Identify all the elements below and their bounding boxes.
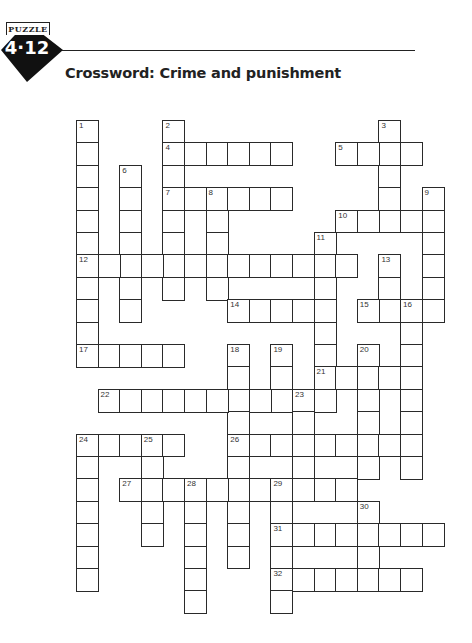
- crossword-cell[interactable]: [378, 299, 401, 323]
- crossword-cell[interactable]: [76, 187, 99, 211]
- crossword-cell[interactable]: [141, 456, 164, 480]
- crossword-cell[interactable]: [314, 299, 337, 323]
- crossword-cell[interactable]: [184, 501, 207, 525]
- crossword-cell[interactable]: [227, 546, 250, 570]
- crossword-cell[interactable]: [119, 389, 142, 413]
- crossword-cell[interactable]: [378, 187, 401, 211]
- crossword-cell[interactable]: [76, 478, 99, 502]
- crossword-cell[interactable]: [270, 501, 293, 525]
- crossword-cell[interactable]: [292, 523, 315, 547]
- crossword-cell[interactable]: [249, 187, 272, 211]
- crossword-cell[interactable]: [400, 411, 423, 435]
- crossword-cell[interactable]: [335, 434, 358, 458]
- crossword-cell[interactable]: 1: [76, 120, 99, 144]
- crossword-cell[interactable]: [76, 232, 99, 256]
- crossword-cell[interactable]: [422, 277, 445, 301]
- crossword-cell[interactable]: [249, 434, 272, 458]
- crossword-cell[interactable]: 10: [335, 210, 358, 234]
- crossword-cell[interactable]: [227, 389, 250, 413]
- crossword-cell[interactable]: [227, 187, 250, 211]
- crossword-cell[interactable]: [378, 142, 401, 166]
- crossword-cell[interactable]: [335, 366, 358, 390]
- crossword-cell[interactable]: 14: [227, 299, 250, 323]
- crossword-cell[interactable]: 21: [314, 366, 337, 390]
- crossword-cell[interactable]: [378, 523, 401, 547]
- crossword-cell[interactable]: 22: [98, 389, 121, 413]
- crossword-cell[interactable]: [270, 299, 293, 323]
- crossword-cell[interactable]: [76, 546, 99, 570]
- crossword-cell[interactable]: [141, 523, 164, 547]
- crossword-cell[interactable]: 19: [270, 344, 293, 368]
- crossword-cell[interactable]: [227, 254, 250, 278]
- crossword-cell[interactable]: [270, 366, 293, 390]
- crossword-cell[interactable]: [227, 501, 250, 525]
- crossword-cell[interactable]: [184, 389, 207, 413]
- crossword-cell[interactable]: [357, 456, 380, 480]
- crossword-cell[interactable]: 11: [314, 232, 337, 256]
- crossword-cell[interactable]: [422, 232, 445, 256]
- crossword-cell[interactable]: 13: [378, 254, 401, 278]
- crossword-cell[interactable]: [76, 568, 99, 592]
- crossword-cell[interactable]: [314, 434, 337, 458]
- crossword-cell[interactable]: [76, 501, 99, 525]
- crossword-cell[interactable]: [76, 523, 99, 547]
- crossword-cell[interactable]: [206, 142, 229, 166]
- crossword-cell[interactable]: 25: [141, 434, 164, 458]
- crossword-cell[interactable]: [314, 344, 337, 368]
- crossword-cell[interactable]: [422, 210, 445, 234]
- crossword-cell[interactable]: [378, 277, 401, 301]
- crossword-cell[interactable]: [357, 568, 380, 592]
- crossword-cell[interactable]: [141, 344, 164, 368]
- crossword-cell[interactable]: [206, 478, 229, 502]
- crossword-cell[interactable]: [400, 389, 423, 413]
- crossword-cell[interactable]: [184, 187, 207, 211]
- crossword-cell[interactable]: [76, 456, 99, 480]
- crossword-cell[interactable]: [162, 232, 185, 256]
- crossword-cell[interactable]: [378, 434, 401, 458]
- crossword-cell[interactable]: [270, 187, 293, 211]
- crossword-cell[interactable]: [184, 568, 207, 592]
- crossword-cell[interactable]: 8: [206, 187, 229, 211]
- crossword-cell[interactable]: 24: [76, 434, 99, 458]
- crossword-cell[interactable]: [206, 210, 229, 234]
- crossword-cell[interactable]: [400, 344, 423, 368]
- crossword-cell[interactable]: [357, 411, 380, 435]
- crossword-cell[interactable]: [357, 546, 380, 570]
- crossword-cell[interactable]: [227, 411, 250, 435]
- crossword-cell[interactable]: 7: [162, 187, 185, 211]
- crossword-cell[interactable]: [422, 254, 445, 278]
- crossword-cell[interactable]: [184, 254, 207, 278]
- crossword-cell[interactable]: [227, 142, 250, 166]
- crossword-cell[interactable]: [292, 434, 315, 458]
- crossword-cell[interactable]: [400, 456, 423, 480]
- crossword-cell[interactable]: 29: [270, 478, 293, 502]
- crossword-cell[interactable]: [206, 254, 229, 278]
- crossword-cell[interactable]: [422, 299, 445, 323]
- crossword-cell[interactable]: 5: [335, 142, 358, 166]
- crossword-cell[interactable]: [378, 165, 401, 189]
- crossword-cell[interactable]: [98, 434, 121, 458]
- crossword-cell[interactable]: [119, 210, 142, 234]
- crossword-cell[interactable]: [292, 456, 315, 480]
- crossword-cell[interactable]: [184, 142, 207, 166]
- crossword-cell[interactable]: [335, 523, 358, 547]
- crossword-cell[interactable]: [400, 366, 423, 390]
- crossword-cell[interactable]: [357, 523, 380, 547]
- crossword-cell[interactable]: [357, 366, 380, 390]
- crossword-cell[interactable]: [227, 366, 250, 390]
- crossword-cell[interactable]: [314, 254, 337, 278]
- crossword-cell[interactable]: [227, 456, 250, 480]
- crossword-cell[interactable]: [270, 254, 293, 278]
- crossword-cell[interactable]: [227, 478, 250, 502]
- crossword-cell[interactable]: [119, 434, 142, 458]
- crossword-cell[interactable]: [357, 142, 380, 166]
- crossword-cell[interactable]: 16: [400, 299, 423, 323]
- crossword-cell[interactable]: [270, 546, 293, 570]
- crossword-cell[interactable]: [162, 277, 185, 301]
- crossword-cell[interactable]: [335, 568, 358, 592]
- crossword-cell[interactable]: 12: [76, 254, 99, 278]
- crossword-cell[interactable]: [162, 344, 185, 368]
- crossword-cell[interactable]: [400, 434, 423, 458]
- crossword-cell[interactable]: [206, 277, 229, 301]
- crossword-cell[interactable]: [76, 165, 99, 189]
